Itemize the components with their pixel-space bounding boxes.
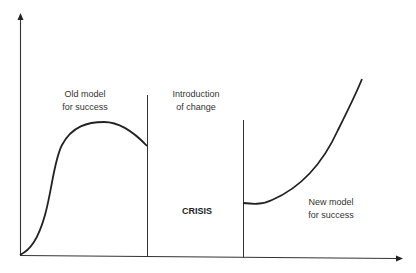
- old-model-label-line2: for success: [62, 101, 108, 114]
- y-axis-arrow-icon: [18, 13, 24, 20]
- old-model-curve: [20, 122, 147, 255]
- x-axis: [20, 256, 397, 259]
- old-model-label-line1: Old model: [62, 88, 108, 101]
- new-model-curve: [243, 79, 362, 204]
- introduction-of-change-label: Introduction of change: [172, 88, 219, 114]
- old-model-label: Old model for success: [62, 88, 108, 114]
- introduction-label-line1: Introduction: [172, 88, 219, 101]
- new-model-label-line2: for success: [308, 209, 354, 222]
- new-model-label: New model for success: [308, 196, 354, 222]
- x-axis-arrow-icon: [396, 256, 403, 262]
- introduction-label-line2: of change: [172, 101, 219, 114]
- crisis-label-text: CRISIS: [182, 205, 212, 218]
- new-model-label-line1: New model: [308, 196, 354, 209]
- change-curve-diagram: [0, 0, 416, 273]
- crisis-label: CRISIS: [182, 205, 212, 218]
